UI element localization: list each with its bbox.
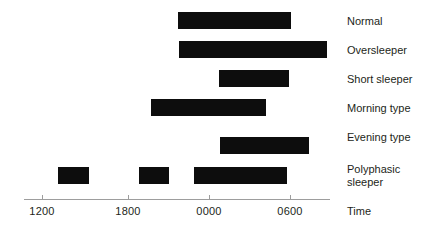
x-axis-tick bbox=[209, 195, 210, 200]
sleep-bar bbox=[151, 99, 266, 116]
sleep-bar bbox=[139, 167, 169, 184]
sleep-bar bbox=[58, 167, 89, 184]
sleep-bar bbox=[194, 167, 287, 184]
x-axis-tick-label: 0600 bbox=[265, 205, 315, 217]
sleep-bar bbox=[220, 137, 309, 154]
sleep-bar bbox=[179, 41, 327, 58]
x-axis-tick-label: 0000 bbox=[184, 205, 234, 217]
sleep-bar bbox=[219, 70, 289, 87]
category-label: Polyphasicsleeper bbox=[347, 163, 417, 189]
sleep-bar bbox=[178, 12, 291, 29]
plot-area bbox=[0, 0, 335, 227]
category-label: Short sleeper bbox=[347, 73, 412, 86]
sleep-pattern-chart: 1200180000000600 NormalOversleeperShort … bbox=[0, 0, 422, 227]
x-axis-line bbox=[24, 199, 330, 200]
x-axis-title: Time bbox=[347, 205, 371, 217]
category-label: Oversleeper bbox=[347, 44, 407, 57]
category-label: Morning type bbox=[347, 102, 411, 115]
x-axis-tick bbox=[128, 195, 129, 200]
x-axis-tick-label: 1800 bbox=[103, 205, 153, 217]
x-axis-tick bbox=[290, 195, 291, 200]
x-axis-tick bbox=[42, 195, 43, 200]
category-label: Evening type bbox=[347, 131, 411, 144]
x-axis-tick-label: 1200 bbox=[17, 205, 67, 217]
category-label: Normal bbox=[347, 15, 382, 28]
